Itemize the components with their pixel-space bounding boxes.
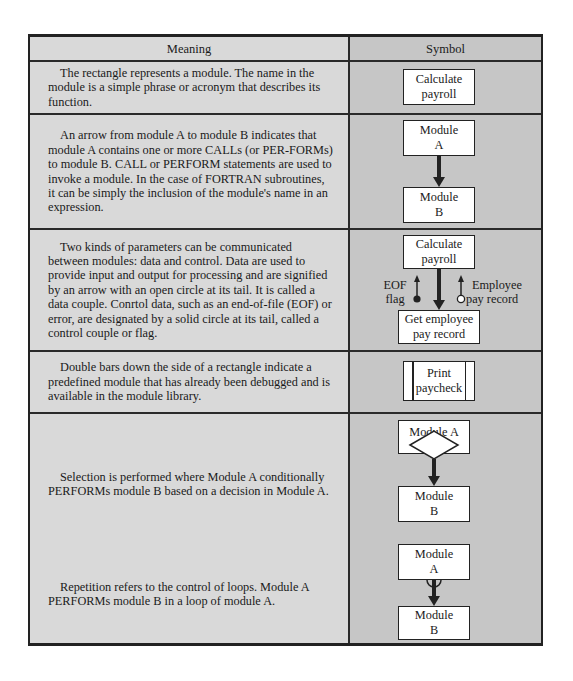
header-meaning-label: Meaning — [167, 42, 211, 56]
box-label: payroll — [422, 87, 457, 102]
get-employee-pay-record-box: Get employee pay record — [398, 310, 480, 344]
label-line: pay record — [466, 292, 546, 306]
box-label: Print — [427, 366, 451, 381]
meaning-text: Double bars down the side of a rectangle… — [48, 360, 334, 403]
box-label: pay record — [413, 327, 465, 342]
row-predefined-symbol: Print paycheck — [350, 352, 541, 412]
label-line: Employee — [466, 278, 546, 292]
repetition-module-a-box: Module A — [398, 544, 470, 580]
box-label: A — [435, 138, 444, 153]
row-couples-symbol: Calculate payroll EOF flag Employee pay … — [350, 230, 541, 350]
calculate-payroll-box: Calculate payroll — [403, 235, 475, 269]
loop-arrow-icon — [350, 414, 351, 415]
row-module-symbol: Calculate payroll — [350, 62, 541, 113]
box-label: Module — [420, 190, 458, 205]
row-repetition-meaning: Repetition refers to the control of loop… — [30, 526, 348, 646]
header-symbol: Symbol — [350, 37, 541, 61]
structure-chart-symbols-table: Meaning Symbol The rectangle represents … — [28, 34, 543, 646]
module-box: Calculate payroll — [403, 69, 475, 105]
meaning-text: Two kinds of parameters can be communica… — [48, 240, 334, 341]
box-label: B — [435, 205, 443, 220]
label-line: EOF — [380, 278, 410, 292]
data-couple-icon — [350, 230, 351, 231]
row-selection-repetition-symbol: Module A Module B Module A Module B — [350, 414, 541, 646]
employee-pay-record-label: Employee pay record — [466, 278, 546, 306]
box-label: Calculate — [416, 72, 462, 87]
eof-flag-label: EOF flag — [380, 278, 410, 306]
row-predefined-meaning: Double bars down the side of a rectangle… — [30, 352, 348, 412]
meaning-text: Selection is performed where Module A co… — [48, 442, 334, 499]
column-divider — [348, 37, 350, 643]
row-couples-meaning: Two kinds of parameters can be communica… — [30, 230, 348, 350]
predefined-module-box: Print paycheck — [403, 361, 475, 401]
meaning-text: Repetition refers to the control of loop… — [48, 526, 334, 609]
module-b-box: Module B — [403, 187, 475, 223]
row-module-meaning: The rectangle represents a module. The n… — [30, 62, 348, 113]
repetition-module-b-box: Module B — [398, 606, 470, 640]
box-label: paycheck — [416, 381, 462, 396]
row-call-meaning: An arrow from module A to module B indic… — [30, 115, 348, 228]
call-arrow-icon — [350, 115, 351, 116]
box-label: Get employee — [405, 312, 474, 327]
row-call-symbol: Module A Module B — [350, 115, 541, 228]
header-symbol-label: Symbol — [426, 42, 465, 57]
label-line: flag — [380, 292, 410, 306]
box-label: Calculate — [416, 237, 462, 252]
left-double-bar — [412, 362, 414, 400]
right-double-bar — [465, 362, 467, 400]
selection-module-b-box: Module B — [398, 486, 470, 522]
meaning-text: An arrow from module A to module B indic… — [48, 128, 334, 214]
box-label: Module — [415, 547, 453, 562]
box-label: B — [430, 504, 438, 519]
header-meaning: Meaning — [30, 37, 348, 61]
module-a-box: Module A — [403, 120, 475, 156]
box-label: Module — [415, 489, 453, 504]
box-label: payroll — [422, 252, 457, 267]
box-label: A — [430, 562, 439, 577]
box-label: Module — [415, 608, 453, 623]
row-selection-meaning: Selection is performed where Module A co… — [30, 414, 348, 526]
box-label: Module — [420, 123, 458, 138]
box-label: B — [430, 623, 438, 638]
meaning-text: The rectangle represents a module. The n… — [48, 66, 334, 109]
